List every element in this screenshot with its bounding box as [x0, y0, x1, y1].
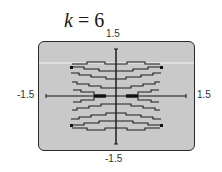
plot-area: [39, 42, 194, 150]
x-max-label: 1.5: [197, 89, 211, 100]
y-max-label: 1.5: [106, 28, 120, 39]
curve-end-marker: [160, 124, 163, 127]
curve-dense-right: [126, 95, 138, 98]
y-min-label: -1.5: [105, 153, 122, 164]
title-value: 6: [94, 9, 104, 31]
x-min-label: -1.5: [17, 89, 34, 100]
curve-end-marker: [160, 66, 163, 69]
chart-title: k = 6: [64, 9, 104, 32]
curve-dense-left: [94, 95, 106, 98]
title-variable: k: [64, 9, 73, 31]
title-equals: =: [73, 9, 94, 31]
calculator-screen: [38, 41, 195, 151]
curve-end-marker: [70, 66, 73, 69]
curve-end-marker: [70, 124, 73, 127]
